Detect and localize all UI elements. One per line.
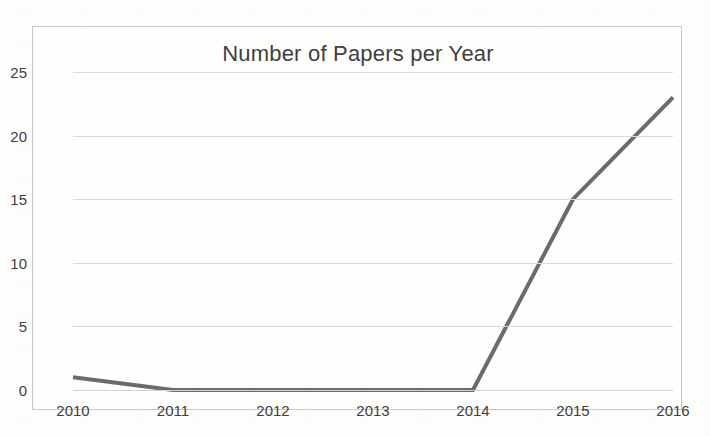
y-axis-label-25: 25 (0, 64, 27, 81)
gridline-y-5 (73, 326, 673, 327)
y-axis-label-5: 5 (0, 318, 27, 335)
plot-area: 05101520252010201120122013201420152016 (73, 72, 673, 390)
y-axis-label-20: 20 (0, 127, 27, 144)
line-series-path (73, 97, 673, 390)
x-axis-label-2016: 2016 (633, 402, 710, 419)
x-axis-label-2011: 2011 (133, 402, 213, 419)
gridline-y-25 (73, 72, 673, 73)
gridline-y-10 (73, 263, 673, 264)
gridline-y-20 (73, 136, 673, 137)
chart-title: Number of Papers per Year (33, 41, 683, 67)
x-axis-label-2013: 2013 (333, 402, 413, 419)
scanned-page: Number of Papers per Year 05101520252010… (0, 0, 710, 436)
line-series-svg (73, 72, 673, 390)
y-axis-label-15: 15 (0, 191, 27, 208)
x-axis-label-2010: 2010 (33, 402, 113, 419)
gridline-y-0 (73, 390, 673, 391)
gridline-y-15 (73, 199, 673, 200)
y-axis-label-10: 10 (0, 254, 27, 271)
x-axis-label-2015: 2015 (533, 402, 613, 419)
y-axis-label-0: 0 (0, 382, 27, 399)
x-axis-label-2014: 2014 (433, 402, 513, 419)
x-axis-label-2012: 2012 (233, 402, 313, 419)
chart-frame: Number of Papers per Year 05101520252010… (32, 26, 682, 410)
